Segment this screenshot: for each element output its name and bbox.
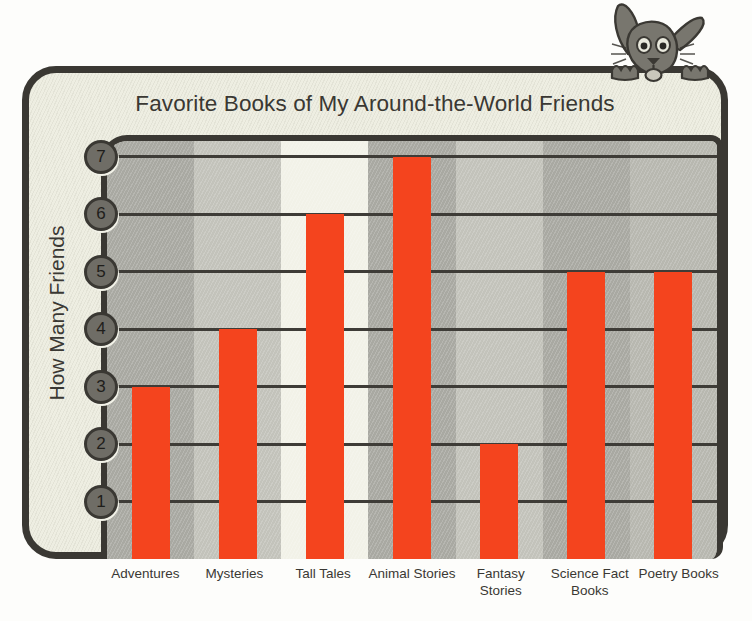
x-axis-label: Adventures [101,565,190,599]
y-axis-tick-badge: 7 [84,140,118,174]
y-axis-tick-badge: 3 [84,370,118,404]
y-axis-tick-badge: 6 [84,197,118,231]
x-axis-label-line: Adventures [101,565,190,582]
y-axis-ticks: 1234567 [29,73,129,552]
x-axis-label: FantasyStories [456,565,545,599]
bars-layer [107,141,717,559]
bar [654,272,692,560]
y-axis-tick-badge: 4 [84,312,118,346]
x-axis-label-line: Books [545,582,634,599]
plot-area [101,135,723,559]
x-axis-label: Tall Tales [279,565,368,599]
x-axis-label-line: Science Fact [545,565,634,582]
rabbit-mascot-icon [596,0,726,90]
y-axis-tick-badge: 5 [84,255,118,289]
x-axis-label-line: Mysteries [190,565,279,582]
x-axis-label: Science FactBooks [545,565,634,599]
bar [393,157,431,560]
y-axis-tick-badge: 2 [84,427,118,461]
x-axis-label: Mysteries [190,565,279,599]
bar [132,387,170,560]
chart-title: Favorite Books of My Around-the-World Fr… [135,91,614,117]
x-axis-label: Animal Stories [368,565,457,599]
bar [219,329,257,559]
x-axis-label: Poetry Books [634,565,723,599]
x-axis-label-line: Tall Tales [279,565,368,582]
y-axis-tick-badge: 1 [84,485,118,519]
x-axis-label-line: Animal Stories [368,565,457,582]
x-axis-label-line: Stories [456,582,545,599]
x-axis-label-line: Fantasy [456,565,545,582]
bar [306,214,344,559]
x-axis-label-line: Poetry Books [634,565,723,582]
chart-frame: Favorite Books of My Around-the-World Fr… [22,66,728,559]
x-axis-labels: AdventuresMysteriesTall TalesAnimal Stor… [101,565,723,599]
bar [567,272,605,560]
bar [480,444,518,559]
